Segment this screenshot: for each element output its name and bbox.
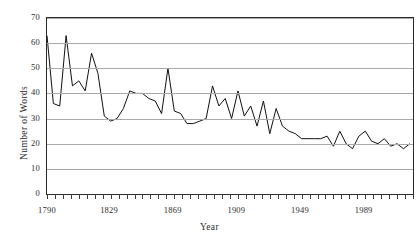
x-axis-title: Year xyxy=(0,222,419,232)
x-tick-1915 xyxy=(246,194,247,199)
x-tick-1855 xyxy=(150,194,151,199)
x-tick-1840 xyxy=(127,194,128,199)
y-tick-label-30: 30 xyxy=(18,113,40,123)
x-tick-1875 xyxy=(182,194,183,199)
x-tick-label-1909: 1909 xyxy=(227,205,245,215)
x-tick-label-1869: 1869 xyxy=(164,205,182,215)
x-tick-1845 xyxy=(135,194,136,199)
x-tick-2020 xyxy=(413,194,414,199)
x-tick-label-1790: 1790 xyxy=(38,205,56,215)
data-series-line xyxy=(47,18,413,194)
x-tick-1910 xyxy=(238,194,239,199)
x-tick-1970 xyxy=(333,194,334,199)
x-tick-1820 xyxy=(95,194,96,199)
x-tick-1945 xyxy=(294,194,295,199)
x-tick-2010 xyxy=(397,194,398,199)
x-tick-1885 xyxy=(198,194,199,199)
x-tick-1800 xyxy=(63,194,64,199)
y-tick-label-60: 60 xyxy=(18,37,40,47)
y-tick-label-20: 20 xyxy=(18,138,40,148)
x-tick-1825 xyxy=(103,194,104,199)
gridline-y-60 xyxy=(47,43,413,44)
x-tick-1935 xyxy=(278,194,279,199)
x-tick-1805 xyxy=(71,194,72,199)
x-tick-1980 xyxy=(349,194,350,199)
x-tick-1810 xyxy=(79,194,80,199)
y-tick-label-10: 10 xyxy=(18,163,40,173)
x-tick-1795 xyxy=(55,194,56,199)
x-tick-1995 xyxy=(373,194,374,199)
line-chart: Number of Words 010203040506070 17901829… xyxy=(0,0,419,248)
gridline-y-70 xyxy=(47,18,413,19)
x-tick-1900 xyxy=(222,194,223,199)
x-tick-2000 xyxy=(381,194,382,199)
x-tick-1880 xyxy=(190,194,191,199)
y-tick-label-0: 0 xyxy=(18,188,40,198)
gridline-y-10 xyxy=(47,169,413,170)
x-tick-label-1989: 1989 xyxy=(355,205,373,215)
x-tick-1870 xyxy=(174,194,175,199)
x-tick-2005 xyxy=(389,194,390,199)
x-tick-1860 xyxy=(158,194,159,199)
x-tick-1955 xyxy=(310,194,311,199)
gridline-y-30 xyxy=(47,119,413,120)
x-tick-1790 xyxy=(47,194,48,199)
x-tick-1920 xyxy=(254,194,255,199)
x-tick-1905 xyxy=(230,194,231,199)
gridline-y-50 xyxy=(47,68,413,69)
x-tick-label-1829: 1829 xyxy=(100,205,118,215)
x-tick-1830 xyxy=(111,194,112,199)
gridline-y-40 xyxy=(47,93,413,94)
x-tick-1895 xyxy=(214,194,215,199)
x-tick-2015 xyxy=(405,194,406,199)
x-tick-1930 xyxy=(270,194,271,199)
x-tick-label-1949: 1949 xyxy=(291,205,309,215)
x-tick-1865 xyxy=(166,194,167,199)
x-tick-1815 xyxy=(87,194,88,199)
gridline-y-20 xyxy=(47,144,413,145)
x-tick-1890 xyxy=(206,194,207,199)
x-tick-1985 xyxy=(357,194,358,199)
x-tick-1960 xyxy=(318,194,319,199)
y-tick-label-70: 70 xyxy=(18,12,40,22)
y-axis-tick-labels: 010203040506070 xyxy=(18,0,40,200)
x-tick-1850 xyxy=(142,194,143,199)
plot-area xyxy=(46,17,414,195)
x-tick-1925 xyxy=(262,194,263,199)
y-tick-label-50: 50 xyxy=(18,62,40,72)
y-tick-label-40: 40 xyxy=(18,87,40,97)
x-tick-1990 xyxy=(365,194,366,199)
x-tick-1950 xyxy=(302,194,303,199)
x-axis-tick-labels: 179018291869190919491989 xyxy=(46,205,414,219)
x-tick-1940 xyxy=(286,194,287,199)
x-tick-1835 xyxy=(119,194,120,199)
x-tick-1975 xyxy=(341,194,342,199)
x-tick-1965 xyxy=(325,194,326,199)
